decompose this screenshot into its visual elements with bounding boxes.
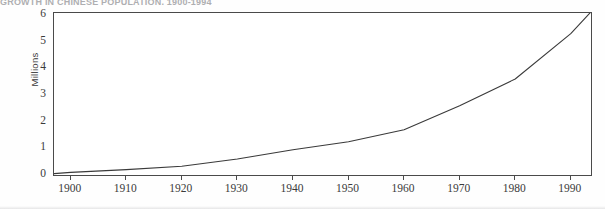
chart-figure: GROWTH IN CHINESE POPULATION, 1900-1994 … [0,0,605,209]
x-tick-mark [403,176,404,180]
y-tick-label: 3 [18,88,46,100]
x-tick-mark [348,176,349,180]
y-tick-label: 2 [18,115,46,127]
x-tick-mark [570,176,571,180]
y-tick-label: 6 [18,8,46,20]
x-tick-mark [236,176,237,180]
clipped-figure-title: GROWTH IN CHINESE POPULATION, 1900-1994 [0,0,605,5]
x-tick-mark [181,176,182,180]
plot-area [53,12,592,176]
x-tick-mark [70,176,71,180]
x-tick-mark [125,176,126,180]
x-axis-tick-labels: 1900191019201930194019501960197019801990 [0,176,605,209]
x-tick-mark [514,176,515,180]
x-tick-label: 1910 [102,183,148,195]
y-tick-label: 5 [18,35,46,47]
x-tick-mark [459,176,460,180]
x-tick-label: 1930 [213,183,259,195]
x-tick-label: 1970 [436,183,482,195]
line-series-svg [54,13,593,177]
x-tick-label: 1940 [269,183,315,195]
y-tick-label: 4 [18,61,46,73]
x-tick-label: 1950 [325,183,371,195]
x-tick-mark [292,176,293,180]
population-line [54,13,593,174]
x-tick-label: 1960 [380,183,426,195]
y-tick-label: 1 [18,141,46,153]
x-tick-label: 1900 [47,183,93,195]
x-tick-label: 1990 [547,183,593,195]
x-tick-label: 1980 [491,183,537,195]
x-tick-label: 1920 [158,183,204,195]
